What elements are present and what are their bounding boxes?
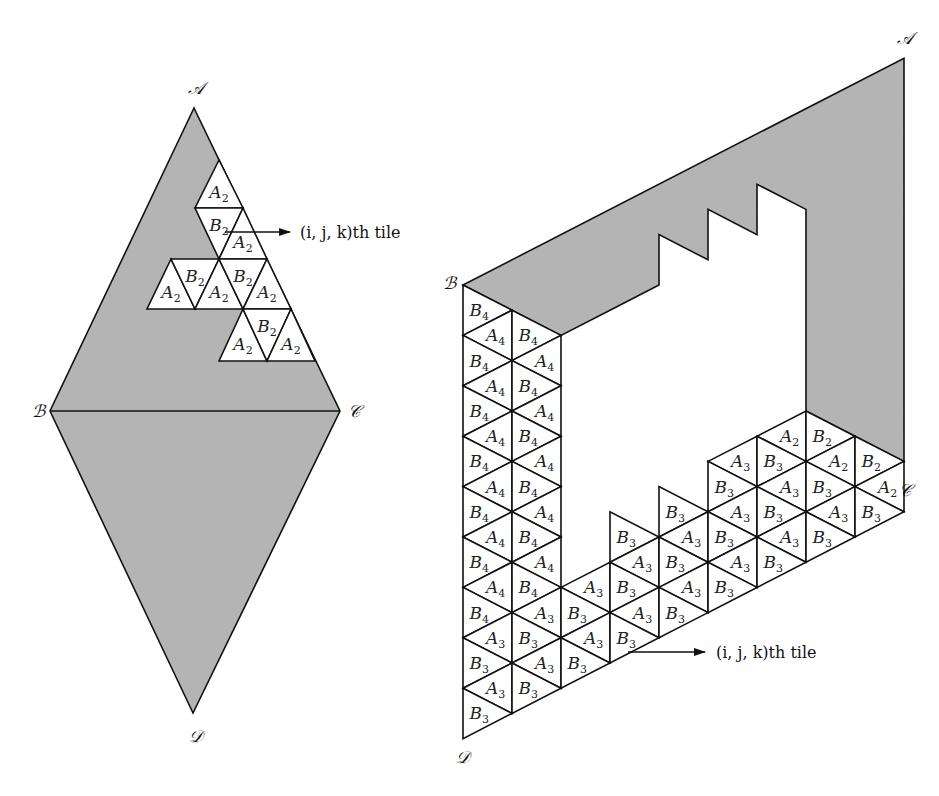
lozenge-tiling-figure: A2B2A2A2B2A2B2A2A2B2A2 (i, j, k)th tile … (0, 0, 939, 796)
vertex-label-b: ℬ (32, 401, 47, 421)
tile-pointer-label-left: (i, j, k)th tile (300, 223, 401, 242)
vertex-label-d: 𝒟 (189, 726, 206, 746)
vertex-label-a: 𝒜 (188, 78, 209, 98)
vertex-label-c: 𝒞 (348, 401, 365, 421)
vertex-label-d: 𝒟 (456, 747, 473, 767)
vertex-label-b: ℬ (443, 273, 458, 293)
vertex-label-c: 𝒞 (899, 480, 916, 500)
vertex-label-a: 𝒜 (897, 28, 918, 48)
left-diamond-panel: A2B2A2A2B2A2B2A2A2B2A2 (i, j, k)th tile … (32, 78, 401, 746)
right-staircase-panel: B4A4B4A4B4A4B4A4B4A4B4A4B4A3B3A3B3B4A4B4… (443, 28, 919, 767)
tile-pointer-label-right: (i, j, k)th tile (716, 643, 817, 662)
